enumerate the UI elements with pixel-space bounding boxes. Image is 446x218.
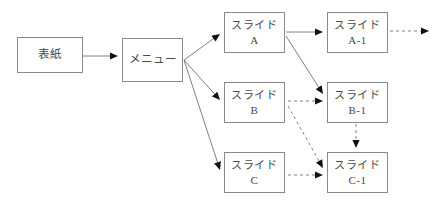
edge-menu-to-slide-a <box>184 34 220 60</box>
node-label-primary: スライド <box>334 18 380 33</box>
arrowhead-icon <box>110 52 118 59</box>
edge-menu-to-slide-b <box>184 60 220 100</box>
edge-slide-a-to-b-1 <box>286 36 323 94</box>
edge-slide-a-to-a-1 <box>286 28 323 35</box>
node-label-secondary: A <box>250 33 258 48</box>
edge-slide-b-to-c-1 <box>288 106 323 168</box>
arrowhead-icon <box>421 27 429 34</box>
edge-line <box>184 60 216 95</box>
node-label-secondary: C <box>251 173 259 188</box>
arrowhead-icon <box>214 161 221 170</box>
node-label-primary: 表紙 <box>38 47 62 63</box>
arrowhead-icon <box>315 171 323 178</box>
node-slide-b-1[interactable]: スライドB-1 <box>327 82 388 123</box>
node-label-primary: スライド <box>334 158 380 173</box>
arrowhead-icon <box>352 140 359 148</box>
node-label-secondary: C-1 <box>349 173 367 188</box>
node-label-secondary: B-1 <box>349 103 367 118</box>
edge-slide-a-1-to-next <box>390 27 429 34</box>
node-cover[interactable]: 表紙 <box>17 37 83 73</box>
edge-menu-to-slide-c <box>184 60 221 170</box>
node-label-primary: スライド <box>231 88 277 103</box>
node-slide-a-1[interactable]: スライドA-1 <box>327 12 388 53</box>
edge-line <box>288 106 320 162</box>
node-label-primary: スライド <box>231 158 277 173</box>
arrowhead-icon <box>211 34 220 42</box>
edge-line <box>286 36 320 89</box>
node-label-secondary: B <box>251 103 259 118</box>
node-menu[interactable]: メニュー <box>122 38 183 82</box>
arrowhead-icon <box>316 159 323 168</box>
node-label-secondary: A-1 <box>348 33 367 48</box>
node-slide-a[interactable]: スライドA <box>224 12 285 53</box>
arrowhead-icon <box>315 97 323 104</box>
node-label-primary: スライド <box>334 88 380 103</box>
node-label-primary: メニュー <box>129 52 177 68</box>
node-label-primary: スライド <box>231 18 277 33</box>
edge-line <box>184 38 215 60</box>
arrowhead-icon <box>315 28 323 35</box>
edge-slide-b-1-to-c-1 <box>352 124 359 148</box>
node-slide-c[interactable]: スライドC <box>224 152 285 193</box>
edge-line <box>184 60 218 164</box>
edge-slide-c-to-c-1 <box>288 171 323 178</box>
node-slide-b[interactable]: スライドB <box>224 82 285 123</box>
node-slide-c-1[interactable]: スライドC-1 <box>327 152 388 193</box>
arrowhead-icon <box>316 85 323 94</box>
slide-transition-diagram: 表紙メニュースライドAスライドA-1スライドBスライドB-1スライドCスライドC… <box>0 0 446 218</box>
edge-slide-b-to-b-1 <box>288 97 323 104</box>
edge-cover-to-menu <box>83 52 118 59</box>
